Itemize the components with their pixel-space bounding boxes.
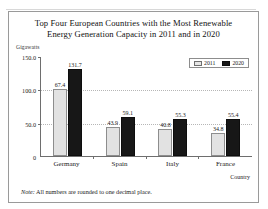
bar-groups: 67.4 131.7 43.9 59.1 (41, 57, 252, 156)
footnote-text: All numbers are rounded to one decimal p… (36, 188, 152, 195)
y-tick-label-150: 150.0 (22, 54, 36, 61)
legend-item-2011[interactable]: 2011 (194, 60, 215, 66)
bar-group-germany: 67.4 131.7 (41, 57, 94, 156)
bar-value-spain-2020: 59.1 (122, 110, 133, 116)
bar-group-italy: 40.8 55.3 (147, 57, 200, 156)
bar-italy-2020[interactable]: 55.3 (173, 119, 187, 156)
bar-italy-2011[interactable]: 40.8 (158, 129, 172, 156)
bar-value-italy-2020: 55.3 (175, 112, 186, 118)
legend-label-2011: 2011 (204, 60, 215, 66)
bar-group-france: 34.8 55.4 (199, 57, 252, 156)
bar-value-france-2011: 34.8 (213, 126, 224, 132)
x-axis-title: Country (230, 174, 250, 180)
bar-group-spain: 43.9 59.1 (94, 57, 147, 156)
chart-title-line-1: Top Four European Countries with the Mos… (21, 18, 246, 29)
legend-swatch-2011-icon (194, 61, 202, 66)
bar-france-2011[interactable]: 34.8 (211, 133, 225, 156)
y-axis-unit-label: Gigawatts (16, 44, 258, 50)
chart-title-line-2: Energy Generation Capacity in 2011 and i… (21, 29, 246, 40)
x-label-italy: Italy (146, 158, 199, 170)
y-tick-label-50: 50.0 (25, 120, 36, 127)
chart-footnote: Note: All numbers are rounded to one dec… (21, 188, 152, 195)
plot-wrapper: 150.0 100.0 50.0 0 67.4 131.7 (9, 51, 258, 169)
x-axis-category-labels: Germany Spain Italy France (40, 158, 252, 170)
bar-spain-2011[interactable]: 43.9 (106, 127, 120, 156)
chart-legend: 2011 2020 (189, 58, 249, 68)
bar-france-2020[interactable]: 55.4 (226, 119, 240, 156)
bar-value-france-2020: 55.4 (228, 112, 239, 118)
bar-value-germany-2011: 67.4 (55, 82, 66, 88)
legend-label-2020: 2020 (232, 60, 244, 66)
bar-germany-2020[interactable]: 131.7 (68, 69, 82, 156)
x-label-france: France (199, 158, 252, 170)
legend-swatch-2020-icon (222, 61, 230, 66)
chart-figure: Top Four European Countries with the Mos… (8, 11, 259, 203)
y-tick-label-100: 100.0 (22, 87, 36, 94)
y-tick-label-0: 0 (33, 154, 36, 161)
scan-artifact (0, 0, 268, 11)
bar-spain-2020[interactable]: 59.1 (121, 117, 135, 156)
bar-value-germany-2020: 131.7 (68, 62, 82, 68)
chart-title: Top Four European Countries with the Mos… (21, 18, 246, 40)
bar-value-spain-2011: 43.9 (107, 120, 118, 126)
plot-area: 67.4 131.7 43.9 59.1 (40, 57, 252, 157)
bar-germany-2011[interactable]: 67.4 (53, 89, 67, 156)
bar-value-italy-2011: 40.8 (160, 122, 171, 128)
y-axis-tick-labels: 150.0 100.0 50.0 0 (9, 51, 40, 169)
footnote-marker: Note: (21, 188, 35, 195)
x-label-spain: Spain (93, 158, 146, 170)
legend-item-2020[interactable]: 2020 (222, 60, 244, 66)
x-label-germany: Germany (40, 158, 93, 170)
